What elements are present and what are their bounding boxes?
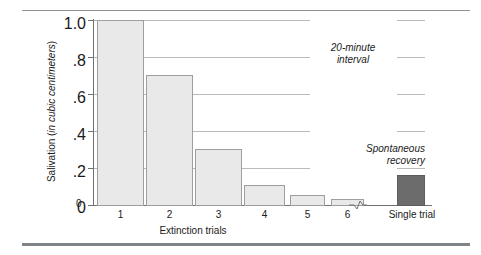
y-axis-line: [93, 19, 94, 206]
x-tick-label-single-trial: Single trial: [374, 209, 450, 220]
bar-trial-4: [244, 185, 285, 206]
y-axis-title: Salivation (in cubic centimeters): [46, 17, 57, 207]
bar-spontaneous-recovery: [397, 175, 425, 206]
x-tick-label-2: 2: [149, 209, 190, 220]
gridline-stub-0.2: [397, 168, 425, 169]
y-tick-label-0.2: .2: [58, 163, 86, 181]
x-axis-origin-label: 0: [76, 198, 82, 209]
y-tick-mark-0.6: [88, 94, 93, 95]
y-tick-label-0.6: .6: [58, 89, 86, 107]
gridline-stub-0.6: [397, 94, 425, 95]
y-axis-title-plain: Salivation (: [46, 133, 57, 182]
y-tick-label-0.8: .8: [58, 52, 86, 70]
y-axis-title-italic: in cubic centimeters: [46, 44, 57, 132]
gridline-stub-1.0: [397, 20, 425, 21]
y-tick-label-1.0: 1.0: [58, 15, 86, 33]
y-tick-label-0.4: .4: [58, 126, 86, 144]
y-tick-mark-1.0: [88, 20, 93, 21]
annotation-spontaneous-recovery: Spontaneous recovery: [332, 143, 425, 167]
bar-trial-1: [97, 20, 144, 206]
x-tick-label-4: 4: [244, 209, 285, 220]
x-axis-title: Extinction trials: [93, 225, 293, 236]
x-tick-label-3: 3: [198, 209, 239, 220]
y-axis-title-close: ): [46, 41, 57, 44]
bar-trial-3: [195, 149, 242, 206]
bar-trial-5: [290, 195, 325, 206]
annotation-recovery-line2: recovery: [332, 155, 425, 167]
y-tick-mark-0: [88, 205, 93, 206]
y-tick-mark-0.2: [88, 168, 93, 169]
gridline-stub-0.4: [397, 131, 425, 132]
annotation-20-minute-interval: 20-minute interval: [316, 42, 390, 66]
x-tick-label-1: 1: [100, 209, 141, 220]
bar-trial-2: [146, 75, 193, 206]
y-tick-mark-0.4: [88, 131, 93, 132]
annotation-interval-line2: interval: [316, 54, 390, 66]
annotation-interval-line1: 20-minute: [316, 42, 390, 54]
gridline-stub-0.8: [397, 57, 425, 58]
x-tick-label-6: 6: [327, 209, 368, 220]
x-tick-label-5: 5: [287, 209, 328, 220]
bar-chart-plot-area: 1.0 .8 .6 .4 .2 0 Salivation (in cubic c…: [0, 0, 481, 255]
y-tick-mark-0.8: [88, 57, 93, 58]
annotation-recovery-line1: Spontaneous: [332, 143, 425, 155]
figure-container: 1.0 .8 .6 .4 .2 0 Salivation (in cubic c…: [0, 0, 481, 255]
